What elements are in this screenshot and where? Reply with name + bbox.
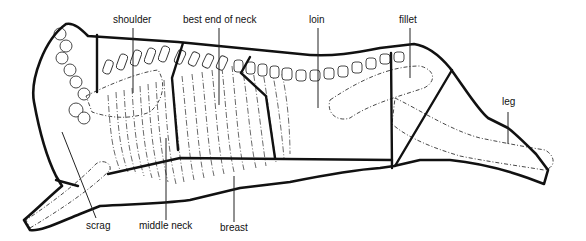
label-leg: leg [502, 96, 515, 108]
label-loin: loin [309, 14, 325, 26]
neck-bones [54, 28, 90, 124]
label-breast: breast [220, 222, 248, 234]
lamb-cuts-diagram [0, 0, 586, 241]
label-middle-neck: middle neck [139, 220, 192, 232]
label-best-end-of-neck: best end of neck [183, 14, 256, 26]
label-fillet: fillet [399, 14, 417, 26]
carcass-outline [24, 24, 548, 231]
label-shoulder: shoulder [113, 14, 151, 26]
leg-bone [392, 98, 553, 170]
cut-fillet-leg [395, 70, 452, 166]
cut-loin-fillet [391, 53, 392, 168]
label-scrag: scrag [86, 220, 110, 232]
cut-lines [56, 35, 452, 186]
ribs [108, 64, 290, 184]
